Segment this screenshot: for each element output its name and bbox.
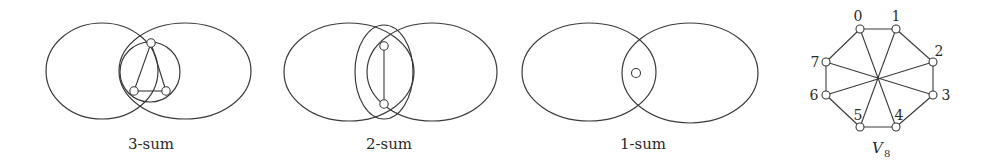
clique-sum-diagram: 3-sum 2-sum 1-sum xyxy=(0,0,989,164)
clique-edge xyxy=(151,43,166,91)
clique-vertex xyxy=(162,87,170,95)
vertex-label-1: 1 xyxy=(892,8,901,24)
vertex-5 xyxy=(856,123,864,131)
vertex-label-2: 2 xyxy=(935,43,944,59)
clique-vertex xyxy=(147,39,155,47)
caption-two-sum: 2-sum xyxy=(366,135,412,153)
clique-vertex xyxy=(380,42,388,50)
panel-two-sum: 2-sum xyxy=(284,23,497,153)
left-graph-ellipse xyxy=(284,23,414,121)
vertex-3 xyxy=(929,91,937,99)
graph-title-subscript: 8 xyxy=(884,148,890,159)
vertex-0 xyxy=(856,25,864,33)
clique-edge xyxy=(134,43,151,91)
panel-v8-graph: 0 1 2 3 4 5 6 7 V 8 xyxy=(810,8,951,159)
cycle-edge xyxy=(896,29,933,62)
vertex-7 xyxy=(822,58,830,66)
vertex-label-5: 5 xyxy=(854,107,863,123)
clique-vertex xyxy=(380,100,388,108)
panel-one-sum: 1-sum xyxy=(522,23,758,153)
right-graph-ellipse xyxy=(119,23,251,119)
vertex-label-3: 3 xyxy=(942,87,951,103)
shared-clique-circle xyxy=(120,42,180,102)
caption-three-sum: 3-sum xyxy=(128,135,174,153)
clique-vertex xyxy=(130,87,138,95)
vertex-4 xyxy=(892,123,900,131)
vertex-6 xyxy=(822,91,830,99)
vertex-1 xyxy=(892,25,900,33)
cycle-edge xyxy=(826,29,860,62)
caption-one-sum: 1-sum xyxy=(620,135,666,153)
right-graph-ellipse xyxy=(622,23,758,123)
shared-vertex xyxy=(632,69,641,78)
vertex-2 xyxy=(929,58,937,66)
vertex-label-6: 6 xyxy=(810,87,819,103)
vertex-label-0: 0 xyxy=(854,8,863,24)
vertex-label-7: 7 xyxy=(811,54,820,70)
vertex-label-4: 4 xyxy=(895,107,904,123)
panel-three-sum: 3-sum xyxy=(46,23,251,153)
